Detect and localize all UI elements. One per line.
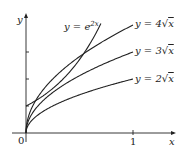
legend-exp: y = e2x: [64, 21, 99, 32]
curve-2: [26, 52, 133, 133]
sqrt-x: √x: [162, 18, 174, 29]
x-axis-label: x: [169, 137, 175, 147]
y-axis-arrow-icon: [24, 13, 28, 18]
origin-label: 0: [18, 136, 24, 146]
legend-2sqrt: y = 2√x: [135, 74, 174, 84]
legend-3sqrt: y = 3√x: [135, 46, 174, 56]
sqrt-x: √x: [162, 73, 174, 84]
legend-4sqrt: y = 4√x: [135, 19, 174, 29]
x-axis-arrow-icon: [171, 131, 176, 135]
x-tick-label-1: 1: [130, 137, 136, 147]
sqrt-x: √x: [162, 45, 174, 56]
curve-0: [26, 24, 101, 106]
chart: y x 0 1 y = e2x y = 4√x y = 3√x y = 2√x: [0, 0, 184, 165]
curve-1: [26, 25, 133, 133]
y-axis-label: y: [17, 15, 23, 25]
curve-3: [26, 79, 133, 133]
